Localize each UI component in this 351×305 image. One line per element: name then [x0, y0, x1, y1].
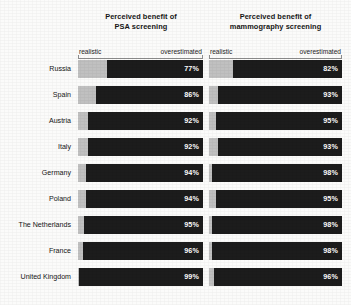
panel-title-mammography-line2: mammography screening: [230, 22, 322, 31]
bar-value-label: 86%: [184, 86, 199, 104]
panel-title-mammography: Perceived benefit of mammography screeni…: [209, 12, 342, 31]
bar-row: 77%: [78, 60, 203, 78]
bar-row: 98%: [209, 242, 342, 260]
mammography-axis-rule: [209, 58, 342, 59]
bar-row: 95%: [209, 190, 342, 208]
category-label: Spain: [0, 86, 71, 104]
panel-title-psa: Perceived benefit of PSA screening: [79, 12, 203, 31]
psa-plot-area: 77%86%92%92%94%94%95%96%99%: [78, 60, 203, 294]
panel-title-psa-line1: Perceived benefit of: [105, 12, 177, 21]
category-label: Italy: [0, 138, 71, 156]
bar-row: 96%: [209, 268, 342, 286]
bar-row: 95%: [78, 216, 203, 234]
bar-row: 96%: [78, 242, 203, 260]
bar-row: 92%: [78, 112, 203, 130]
category-label: Poland: [0, 190, 71, 208]
bar-value-label: 95%: [184, 216, 199, 234]
bar-value-label: 94%: [184, 164, 199, 182]
bar-row: 99%: [78, 268, 203, 286]
bar-value-label: 77%: [184, 60, 199, 78]
bar-row: 93%: [209, 86, 342, 104]
bar-value-label: 98%: [323, 242, 338, 260]
bar-value-label: 95%: [323, 112, 338, 130]
bar-row: 82%: [209, 60, 342, 78]
psa-axis-label-realistic: realistic: [79, 48, 101, 55]
bar-row: 92%: [78, 138, 203, 156]
bar-row: 95%: [209, 112, 342, 130]
category-label: Russia: [0, 60, 71, 78]
bar-value-label: 98%: [323, 164, 338, 182]
bar-row: 94%: [78, 164, 203, 182]
mammography-plot-area: 82%93%95%93%98%95%98%98%96%: [209, 60, 342, 294]
bar-value-label: 98%: [323, 216, 338, 234]
psa-axis-tick-left: [78, 55, 79, 59]
mammography-axis-tick-right: [341, 55, 342, 59]
mammography-axis-tick-left: [209, 55, 210, 59]
category-label: United Kingdom: [0, 268, 71, 286]
bar-row: 94%: [78, 190, 203, 208]
bar-value-label: 99%: [184, 268, 199, 286]
bar-value-label: 94%: [184, 190, 199, 208]
bar-value-label: 93%: [323, 138, 338, 156]
psa-axis-tick-right: [202, 55, 203, 59]
category-label: The Netherlands: [0, 216, 71, 234]
category-label: France: [0, 242, 71, 260]
panel-title-psa-line2: PSA screening: [115, 22, 168, 31]
bar-row: 98%: [209, 164, 342, 182]
bar-row: 86%: [78, 86, 203, 104]
bar-value-label: 92%: [184, 138, 199, 156]
category-label: Austria: [0, 112, 71, 130]
mammography-axis-label-realistic: realistic: [210, 48, 232, 55]
bar-value-label: 92%: [184, 112, 199, 130]
bar-value-label: 93%: [323, 86, 338, 104]
bar-value-label: 95%: [323, 190, 338, 208]
bar-value-label: 96%: [323, 268, 338, 286]
bar-value-label: 82%: [323, 60, 338, 78]
bar-value-label: 96%: [184, 242, 199, 260]
mammography-axis-label-overestimated: overestimated: [255, 48, 341, 55]
panel-title-mammography-line1: Perceived benefit of: [240, 12, 312, 21]
chart-figure: Perceived benefit of PSA screening Perce…: [0, 0, 351, 305]
bar-row: 93%: [209, 138, 342, 156]
psa-axis-label-overestimated: overestimated: [120, 48, 202, 55]
bar-row: 98%: [209, 216, 342, 234]
psa-axis-rule: [78, 58, 203, 59]
category-label: Germany: [0, 164, 71, 182]
